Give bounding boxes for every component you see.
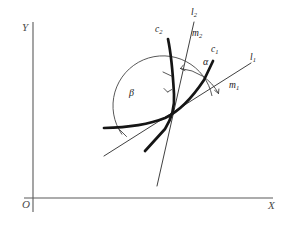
x-axis-label: X: [268, 200, 275, 211]
figure-canvas: [0, 0, 287, 227]
geometry-figure: Y X O c2 c1 l2 m2 l1 m1 α β: [0, 0, 287, 227]
curve-c1-label: c1: [211, 45, 219, 55]
curve-c2-label: c2: [155, 25, 163, 35]
axes-group: [24, 22, 273, 212]
line-l1-label-sub: 1: [253, 56, 256, 63]
line-m2-label-sub: 2: [199, 32, 202, 39]
line-m1-label: m1: [229, 81, 239, 91]
line-m1-label-base: m: [229, 80, 236, 90]
line-m2-label: m2: [192, 29, 202, 39]
curve-c1-label-sub: 1: [215, 48, 218, 55]
line-l2-label-sub: 2: [194, 11, 197, 18]
angle-beta-label: β: [129, 88, 134, 98]
line-m1-label-sub: 1: [236, 84, 239, 91]
angle-alpha-label: α: [203, 57, 208, 67]
curve-c1: [104, 61, 213, 128]
line-l2-m2: [157, 22, 194, 186]
angle-arc-beta: [113, 56, 212, 135]
curve-c2-label-sub: 2: [159, 28, 162, 35]
angle-arc-beta-arrow: [164, 89, 172, 93]
angle-arc-beta-tick-end: [163, 72, 173, 77]
line-m2-label-base: m: [192, 28, 199, 38]
line-l2-label: l2: [191, 8, 197, 18]
line-l1-label: l1: [250, 53, 256, 63]
y-axis-label: Y: [22, 22, 28, 33]
origin-label: O: [22, 199, 30, 210]
